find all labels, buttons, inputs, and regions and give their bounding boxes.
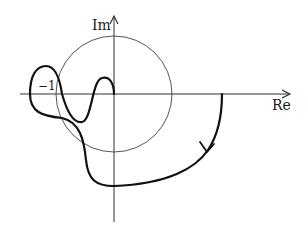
critical-point-label: −1 bbox=[38, 79, 56, 93]
nyquist-curve bbox=[30, 66, 222, 186]
nyquist-diagram: Im Re −1 bbox=[0, 0, 308, 234]
real-axis-label: Re bbox=[272, 97, 291, 113]
imaginary-axis-label: Im bbox=[92, 17, 111, 33]
